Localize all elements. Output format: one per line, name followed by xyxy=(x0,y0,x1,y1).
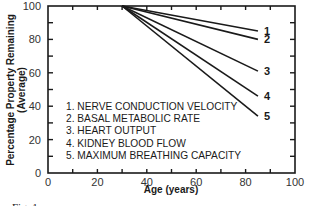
x-tick-label: 0 xyxy=(45,176,51,188)
y-axis-title-line1: Percentage Property Remaining xyxy=(5,14,16,166)
figure-caption: Fig. 1. ... xyxy=(12,201,52,206)
series-label-4: 4 xyxy=(264,90,271,102)
legend-item: 1. NERVE CONDUCTION VELOCITY xyxy=(66,101,238,112)
y-tick-label: 60 xyxy=(29,67,41,79)
series-label-5: 5 xyxy=(264,110,270,122)
y-tick-label: 100 xyxy=(23,0,41,12)
legend-item: 5. MAXIMUM BREATHING CAPACITY xyxy=(66,150,241,161)
legend-item: 4. KIDNEY BLOOD FLOW xyxy=(66,138,186,149)
series-label-2: 2 xyxy=(264,33,270,45)
y-tick-label: 20 xyxy=(29,134,41,146)
series-label-3: 3 xyxy=(264,65,270,77)
x-tick-label: 100 xyxy=(286,176,304,188)
legend-item: 3. HEART OUTPUT xyxy=(66,125,156,136)
y-axis-title-line2: (Average) xyxy=(16,67,27,113)
x-tick-label: 20 xyxy=(91,176,103,188)
legend: 1. NERVE CONDUCTION VELOCITY2. BASAL MET… xyxy=(66,101,241,161)
y-tick-label: 40 xyxy=(29,100,41,112)
y-tick-label: 0 xyxy=(35,167,41,179)
legend-item: 2. BASAL METABOLIC RATE xyxy=(66,113,200,124)
line-chart: 020406080100 020406080100 12345 1. NERVE… xyxy=(0,0,309,206)
x-tick-label: 80 xyxy=(239,176,251,188)
series-line-4 xyxy=(122,6,258,96)
x-axis-title: Age (years) xyxy=(144,184,198,195)
y-tick-label: 80 xyxy=(29,33,41,45)
series-line-1 xyxy=(122,6,258,31)
y-axis-title: Percentage Property Remaining (Average) xyxy=(5,14,27,166)
